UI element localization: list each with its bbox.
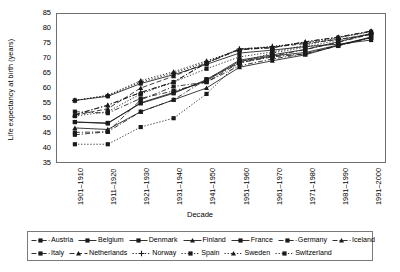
- legend-marker-france-icon: [231, 236, 250, 245]
- legend-row: AustriaBelgiumDenmarkFinlandFranceGerman…: [31, 234, 369, 247]
- y-axis-tick: 85: [43, 9, 51, 17]
- y-axis-tick: 55: [43, 99, 51, 107]
- x-axis-tick: 1931–1940: [176, 168, 183, 205]
- legend-marker-iceland-icon: [332, 236, 351, 245]
- legend-marker-spain-icon: [181, 249, 200, 258]
- legend-marker-belgium-icon: [78, 236, 97, 245]
- x-axis-title: Decade: [0, 210, 400, 219]
- legend-item-finland[interactable]: Finland: [183, 236, 227, 245]
- legend-label: Austria: [51, 237, 74, 244]
- x-axis-tick: 1981–1990: [342, 168, 349, 205]
- y-axis-title-text: Life expectancy at birth (years): [7, 38, 16, 139]
- x-axis-tick: 1911–1920: [110, 169, 117, 205]
- x-axis-tick: 1921–1930: [143, 168, 150, 205]
- y-axis-title: Life expectancy at birth (years): [4, 14, 18, 164]
- y-axis-tick: 65: [43, 69, 51, 77]
- x-axis-tick: 1951–1960: [243, 168, 250, 205]
- chart-legend: AustriaBelgiumDenmarkFinlandFranceGerman…: [27, 231, 373, 261]
- series-line-germany: [73, 36, 373, 135]
- legend-item-denmark[interactable]: Denmark: [129, 236, 179, 245]
- legend-label: Germany: [298, 237, 328, 244]
- legend-label: Iceland: [352, 237, 376, 244]
- x-axis-tick: 1941–1950: [209, 168, 216, 205]
- y-axis-tick-labels: 3540455055606570758085: [20, 10, 54, 170]
- y-axis-tick: 50: [43, 114, 51, 122]
- x-axis-tick: 1971–1980: [309, 168, 316, 205]
- y-axis-tick: 70: [43, 54, 51, 62]
- legend-item-sweden[interactable]: Sweden: [224, 249, 271, 258]
- legend-label: Denmark: [149, 237, 179, 244]
- legend-marker-denmark-icon: [129, 236, 148, 245]
- y-axis-tick: 35: [43, 159, 51, 167]
- line-chart: Life expectancy at birth (years) 3540455…: [0, 0, 400, 228]
- plot-svg: [57, 14, 385, 162]
- legend-marker-germany-icon: [278, 236, 297, 245]
- legend-marker-norway-icon: [132, 249, 151, 258]
- legend-item-netherlands[interactable]: Netherlands: [69, 249, 128, 258]
- x-axis-tick: 1991–2000: [375, 168, 382, 205]
- legend-label: Norway: [152, 250, 177, 257]
- legend-label: Belgium: [98, 237, 125, 244]
- legend-item-switzerland[interactable]: Switzerland: [275, 249, 333, 258]
- legend-label: Spain: [201, 250, 220, 257]
- legend-item-norway[interactable]: Norway: [132, 249, 177, 258]
- x-axis-title-text: Decade: [187, 210, 213, 219]
- y-axis-tick: 75: [43, 39, 51, 47]
- series-line-sweden: [72, 29, 373, 103]
- legend-label: Netherlands: [89, 250, 128, 257]
- legend-item-belgium[interactable]: Belgium: [78, 236, 125, 245]
- chart-figure: Life expectancy at birth (years) 3540455…: [0, 0, 400, 272]
- legend-label: Sweden: [244, 250, 271, 257]
- legend-label: Finland: [203, 237, 227, 244]
- legend-marker-switzerland-icon: [275, 249, 294, 258]
- plot-area: [56, 13, 386, 163]
- y-axis-tick: 40: [43, 144, 51, 152]
- legend-label: Italy: [51, 250, 65, 257]
- x-axis-tick-labels: 1901–19101911–19201921–19301931–19401941…: [56, 163, 386, 209]
- legend-item-france[interactable]: France: [231, 236, 274, 245]
- legend-item-germany[interactable]: Germany: [278, 236, 328, 245]
- legend-label: Switzerland: [295, 250, 333, 257]
- legend-marker-sweden-icon: [224, 249, 243, 258]
- series-line-france: [73, 31, 373, 125]
- legend-item-spain[interactable]: Spain: [181, 249, 220, 258]
- y-axis-tick: 60: [43, 84, 51, 92]
- legend-item-austria[interactable]: Austria: [31, 236, 74, 245]
- legend-marker-austria-icon: [31, 236, 50, 245]
- legend-marker-netherlands-icon: [69, 249, 88, 258]
- legend-item-iceland[interactable]: Iceland: [332, 236, 376, 245]
- legend-label: France: [251, 237, 274, 244]
- legend-marker-italy-icon: [31, 249, 50, 258]
- legend-item-italy[interactable]: Italy: [31, 249, 65, 258]
- legend-marker-finland-icon: [183, 236, 202, 245]
- x-axis-tick: 1901–1910: [77, 168, 84, 205]
- y-axis-tick: 80: [43, 24, 51, 32]
- x-axis-tick: 1961–1970: [276, 168, 283, 205]
- y-axis-tick: 45: [43, 129, 51, 137]
- legend-row: ItalyNetherlandsNorwaySpainSwedenSwitzer…: [31, 247, 369, 260]
